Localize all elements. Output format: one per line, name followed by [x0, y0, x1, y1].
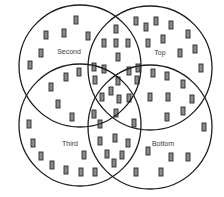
marker-icon	[169, 21, 173, 29]
marker-icon	[27, 120, 31, 128]
marker-icon	[70, 113, 74, 121]
marker-icon	[120, 151, 124, 159]
set-label-second: Second	[57, 48, 81, 55]
marker-icon	[86, 32, 90, 40]
marker-icon	[113, 134, 117, 142]
marker-icon	[77, 68, 81, 76]
markers-layer	[27, 16, 206, 176]
marker-icon	[82, 151, 86, 159]
marker-icon	[190, 95, 194, 103]
marker-icon	[144, 23, 148, 31]
marker-icon	[105, 150, 109, 158]
marker-icon	[117, 95, 121, 103]
marker-icon	[109, 87, 113, 95]
marker-icon	[64, 166, 68, 174]
marker-icon	[186, 30, 190, 38]
marker-icon	[181, 80, 185, 88]
marker-icon	[178, 49, 182, 57]
marker-icon	[165, 72, 169, 80]
marker-icon	[44, 31, 48, 39]
marker-icon	[114, 39, 118, 47]
set-circle-second	[19, 5, 141, 127]
marker-icon	[146, 39, 150, 47]
marker-icon	[39, 49, 43, 57]
marker-icon	[202, 123, 206, 131]
labels-layer: Second Top Third Bottom	[57, 48, 174, 147]
marker-icon	[126, 39, 130, 47]
marker-icon	[62, 29, 66, 37]
marker-icon	[112, 159, 116, 167]
set-circle-top	[88, 6, 212, 130]
marker-icon	[93, 168, 97, 176]
marker-icon	[146, 147, 150, 155]
marker-icon	[28, 61, 32, 69]
marker-icon	[199, 64, 203, 72]
marker-icon	[39, 152, 43, 160]
marker-icon	[92, 63, 96, 71]
marker-icon	[126, 139, 130, 147]
marker-icon	[134, 17, 138, 25]
marker-icon	[134, 168, 138, 176]
marker-icon	[102, 39, 106, 47]
marker-icon	[31, 139, 35, 147]
marker-icon	[181, 107, 185, 115]
set-circle-bottom	[88, 65, 212, 189]
marker-icon	[56, 100, 60, 108]
marker-icon	[114, 25, 118, 33]
marker-icon	[93, 76, 97, 84]
marker-icon	[193, 45, 197, 53]
marker-icon	[50, 161, 54, 169]
marker-icon	[74, 16, 78, 24]
marker-icon	[98, 137, 102, 145]
marker-icon	[166, 93, 170, 101]
marker-icon	[79, 168, 83, 176]
marker-icon	[154, 17, 158, 25]
venn-diagram: Second Top Third Bottom	[0, 0, 224, 197]
marker-icon	[159, 168, 163, 176]
marker-icon	[132, 119, 136, 127]
marker-icon	[161, 35, 165, 43]
marker-icon	[136, 64, 140, 72]
marker-icon	[169, 153, 173, 161]
set-label-third: Third	[62, 140, 78, 147]
marker-icon	[148, 93, 152, 101]
marker-icon	[100, 93, 104, 101]
set-label-bottom: Bottom	[152, 140, 174, 147]
marker-icon	[92, 110, 96, 118]
marker-icon	[165, 113, 169, 121]
marker-icon	[49, 83, 53, 91]
marker-icon	[64, 73, 68, 81]
set-label-top: Top	[154, 49, 165, 57]
marker-icon	[151, 69, 155, 77]
marker-icon	[116, 53, 120, 61]
marker-icon	[186, 153, 190, 161]
